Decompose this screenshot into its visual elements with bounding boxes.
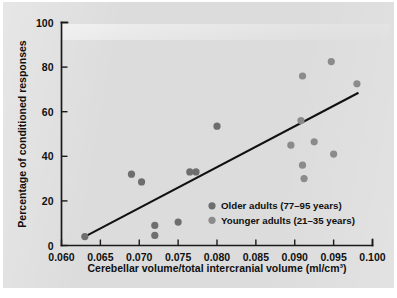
x-tick-label: 0.085 bbox=[243, 251, 269, 263]
y-axis-tick-labels: 020406080100 bbox=[36, 17, 54, 252]
data-point bbox=[81, 233, 88, 240]
data-point bbox=[128, 171, 135, 178]
data-point bbox=[192, 168, 199, 175]
data-point bbox=[151, 232, 158, 239]
x-tick-label: 0.100 bbox=[359, 251, 385, 263]
legend-marker bbox=[208, 217, 215, 224]
data-point bbox=[213, 123, 220, 130]
y-axis-title: Percentage of conditioned responses bbox=[16, 40, 28, 227]
x-axis-tick-labels: 0.0600.0650.0700.0750.0800.0850.0900.095… bbox=[48, 251, 385, 263]
x-tick-label: 0.065 bbox=[87, 251, 113, 263]
data-point bbox=[353, 80, 360, 87]
figure-container: 020406080100 0.0600.0650.0700.0750.0800.… bbox=[0, 0, 397, 298]
y-axis-ticks bbox=[62, 23, 68, 246]
y-tick-label: 20 bbox=[42, 195, 54, 207]
legend-label: Younger adults (21–35 years) bbox=[221, 215, 355, 226]
data-point bbox=[287, 142, 294, 149]
legend-marker bbox=[208, 202, 215, 209]
data-point bbox=[328, 58, 335, 65]
x-tick-label: 0.080 bbox=[204, 251, 230, 263]
x-tick-label: 0.060 bbox=[48, 251, 74, 263]
scatter-plot: 020406080100 0.0600.0650.0700.0750.0800.… bbox=[0, 0, 397, 298]
y-tick-label: 80 bbox=[42, 61, 54, 73]
y-tick-label: 60 bbox=[42, 106, 54, 118]
legend: Older adults (77–95 years)Younger adults… bbox=[208, 200, 354, 226]
data-point bbox=[297, 117, 304, 124]
data-point bbox=[186, 168, 193, 175]
data-point bbox=[330, 150, 337, 157]
x-axis-title: Cerebellar volume/total intercranial vol… bbox=[87, 262, 346, 274]
data-point bbox=[138, 178, 145, 185]
y-tick-label: 100 bbox=[36, 17, 54, 29]
data-point bbox=[299, 72, 306, 79]
data-point bbox=[175, 218, 182, 225]
x-tick-label: 0.075 bbox=[165, 251, 191, 263]
data-point bbox=[300, 175, 307, 182]
data-point bbox=[311, 138, 318, 145]
x-axis-ticks bbox=[62, 240, 373, 246]
legend-label: Older adults (77–95 years) bbox=[221, 200, 342, 211]
x-tick-label: 0.070 bbox=[126, 251, 152, 263]
data-points-older-adults bbox=[81, 123, 220, 241]
x-tick-label: 0.095 bbox=[320, 251, 346, 263]
data-point bbox=[299, 162, 306, 169]
y-tick-label: 40 bbox=[42, 150, 54, 162]
axes bbox=[62, 23, 373, 246]
x-tick-label: 0.090 bbox=[282, 251, 308, 263]
data-point bbox=[151, 222, 158, 229]
data-points-younger-adults bbox=[287, 58, 360, 182]
